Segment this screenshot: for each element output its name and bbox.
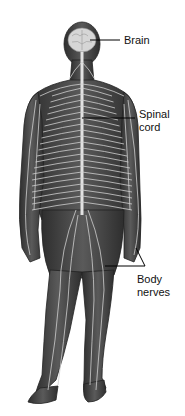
- right-foot: [84, 380, 107, 402]
- label-body-nerves-line2: nerves: [137, 286, 170, 299]
- label-spinal-cord-line1: Spinal: [139, 108, 170, 121]
- label-body-nerves-line1: Body: [137, 273, 170, 286]
- body-silhouette: [19, 22, 141, 404]
- left-foot: [28, 386, 58, 404]
- left-leg: [34, 270, 82, 398]
- hips: [42, 210, 124, 278]
- label-body-nerves: Body nerves: [137, 273, 170, 299]
- label-brain-text: Brain: [124, 34, 150, 46]
- right-leg: [82, 270, 114, 398]
- label-spinal-cord-line2: cord: [139, 121, 170, 134]
- nervous-system-figure: [0, 0, 185, 416]
- left-arm: [19, 92, 44, 262]
- label-spinal-cord: Spinal cord: [139, 108, 170, 134]
- label-brain: Brain: [124, 34, 150, 47]
